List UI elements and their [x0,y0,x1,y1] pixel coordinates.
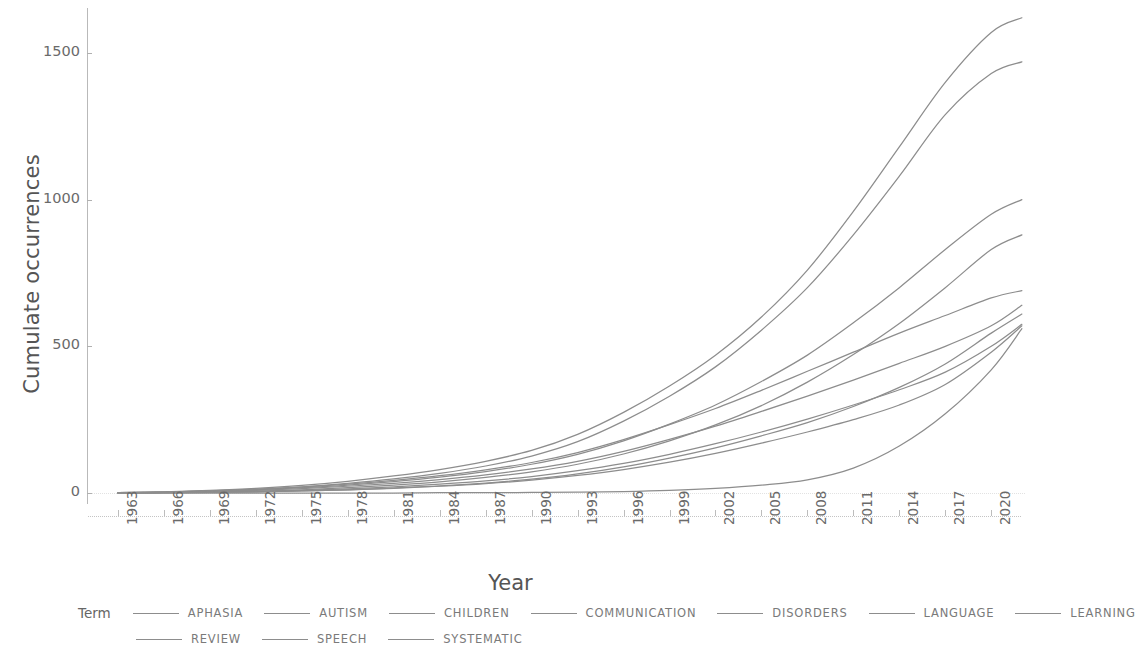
x-tick-label: 1981 [400,491,416,525]
legend-label: APHASIA [188,606,243,620]
y-axis-title: Cumulate occurrences [20,124,44,424]
series-line-children [118,200,1022,493]
x-tick-mark [118,510,119,516]
x-tick-mark [899,510,900,516]
series-line-disorders [118,62,1022,493]
x-tick-mark [624,510,625,516]
legend-label: COMMUNICATION [586,606,697,620]
x-tick-label: 1996 [630,491,646,525]
plot-area [88,8,1021,494]
series-lines [88,8,1021,494]
legend-line-icon [717,613,763,614]
legend-line-icon [136,639,182,640]
x-tick-label: 1978 [354,491,370,525]
legend-item-learning[interactable]: LEARNING [1015,606,1135,620]
x-tick-label: 2008 [813,491,829,525]
legend-line-icon [262,639,308,640]
series-line-language [118,18,1022,493]
x-tick-mark [670,510,671,516]
legend-row-2: REVIEWSPEECHSYSTEMATIC [0,626,1021,652]
legend-row-1: Term APHASIAAUTISMCHILDRENCOMMUNICATIOND… [0,600,1021,626]
x-tick-label: 1999 [676,491,692,525]
x-tick-mark [348,510,349,516]
legend-line-icon [869,613,915,614]
x-tick-mark [532,510,533,516]
x-tick-mark [256,510,257,516]
series-line-learning [118,324,1022,493]
x-tick-mark [486,510,487,516]
legend-label: REVIEW [191,632,241,646]
y-tick-label: 500 [34,336,80,352]
x-tick-mark [853,510,854,516]
x-tick-mark [945,510,946,516]
legend-label: LANGUAGE [924,606,995,620]
x-tick-label: 1969 [216,491,232,525]
x-tick-mark [991,510,992,516]
legend-item-review[interactable]: REVIEW [136,632,241,646]
x-tick-label: 1984 [446,491,462,525]
x-tick-mark [210,510,211,516]
x-tick-mark [164,510,165,516]
x-tick-label: 2011 [859,491,875,525]
x-tick-label: 1987 [492,491,508,525]
legend-item-communication[interactable]: COMMUNICATION [531,606,697,620]
legend-line-icon [1015,613,1061,614]
x-tick-mark [807,510,808,516]
legend-label: LEARNING [1070,606,1135,620]
x-tick-label: 2017 [951,491,967,525]
x-tick-label: 2014 [905,491,921,525]
series-line-systematic [118,329,1022,493]
legend-line-icon [389,613,435,614]
legend-label: SYSTEMATIC [443,632,522,646]
legend-item-autism[interactable]: AUTISM [264,606,368,620]
y-tick-label: 1500 [34,43,80,59]
legend-label: AUTISM [319,606,368,620]
legend-item-speech[interactable]: SPEECH [262,632,367,646]
x-tick-mark [302,510,303,516]
x-tick-mark [394,510,395,516]
legend: Term APHASIAAUTISMCHILDRENCOMMUNICATIOND… [0,600,1021,652]
x-tick-label: 1972 [262,491,278,525]
legend-item-disorders[interactable]: DISORDERS [717,606,847,620]
legend-item-language[interactable]: LANGUAGE [869,606,995,620]
legend-title: Term [78,605,111,621]
x-tick-label: 1966 [170,491,186,525]
x-tick-label: 2020 [997,491,1013,525]
x-tick-label: 2002 [721,491,737,525]
x-tick-label: 2005 [767,491,783,525]
x-tick-mark [578,510,579,516]
legend-line-icon [531,613,577,614]
y-tick-label: 0 [34,483,80,499]
x-tick-mark [761,510,762,516]
legend-label: CHILDREN [444,606,510,620]
legend-label: DISORDERS [772,606,847,620]
legend-item-systematic[interactable]: SYSTEMATIC [388,632,522,646]
x-tick-label: 1963 [124,491,140,525]
x-tick-mark [440,510,441,516]
x-tick-mark [715,510,716,516]
legend-item-aphasia[interactable]: APHASIA [133,606,243,620]
x-tick-label: 1975 [308,491,324,525]
legend-line-icon [388,639,434,640]
series-line-review [118,326,1022,493]
legend-line-icon [133,613,179,614]
legend-item-children[interactable]: CHILDREN [389,606,510,620]
y-tick-label: 1000 [34,190,80,206]
x-axis-title: Year [0,571,1021,595]
x-tick-label: 1993 [584,491,600,525]
x-tick-label: 1990 [538,491,554,525]
legend-line-icon [264,613,310,614]
legend-label: SPEECH [317,632,367,646]
